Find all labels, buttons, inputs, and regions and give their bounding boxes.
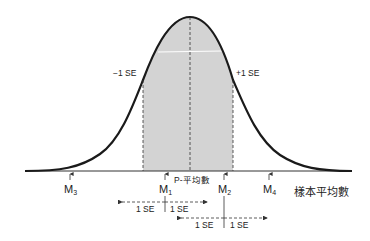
minus-one-se-label: −1 SE (113, 69, 136, 78)
population-mean-label: P-平均數 (174, 176, 210, 185)
m4-label: M4 (263, 184, 276, 196)
m2-left-se-label: 1 SE (195, 221, 213, 230)
m4-sub: 4 (272, 189, 276, 196)
m4-base: M (263, 183, 272, 195)
m2-sub: 2 (227, 189, 231, 196)
m3-base: M (64, 183, 73, 195)
m1-right-se-label: 1 SE (170, 205, 188, 214)
m3-sub: 3 (73, 189, 77, 196)
m3-label: M3 (64, 184, 77, 196)
m1-label: M1 (159, 184, 172, 196)
m1-left-se-label: 1 SE (136, 205, 154, 214)
m1-sub: 1 (168, 189, 172, 196)
m2-label: M2 (218, 184, 231, 196)
shaded-one-se-region (143, 17, 233, 171)
plus-one-se-label: +1 SE (236, 69, 259, 78)
m2-right-se-label: 1 SE (230, 221, 248, 230)
x-axis-title: 樣本平均數 (294, 187, 349, 198)
m2-base: M (218, 183, 227, 195)
m1-base: M (159, 183, 168, 195)
